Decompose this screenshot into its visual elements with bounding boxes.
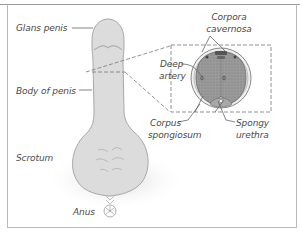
penis-body-shape	[73, 19, 149, 196]
label-corpus-spongiosum-1: Corpus	[150, 118, 181, 128]
label-spongy-urethra-2: urethra	[236, 130, 269, 140]
label-corpora-cavernosa-1: Corpora	[204, 12, 254, 22]
label-corpora-cavernosa-2: cavernosa	[204, 24, 254, 34]
label-corpus-spongiosum-2: spongiosum	[148, 130, 202, 140]
label-body-of-penis: Body of penis	[16, 86, 76, 96]
label-anus: Anus	[73, 207, 95, 217]
cross-section	[191, 48, 251, 108]
label-deep-artery-1: Deep	[160, 59, 183, 69]
label-spongy-urethra-1: Spongy	[236, 118, 269, 128]
label-glans-penis: Glans penis	[16, 23, 67, 33]
label-scrotum: Scrotum	[16, 153, 53, 163]
leader-lines-left	[72, 28, 93, 90]
label-deep-artery-2: artery	[159, 71, 186, 81]
